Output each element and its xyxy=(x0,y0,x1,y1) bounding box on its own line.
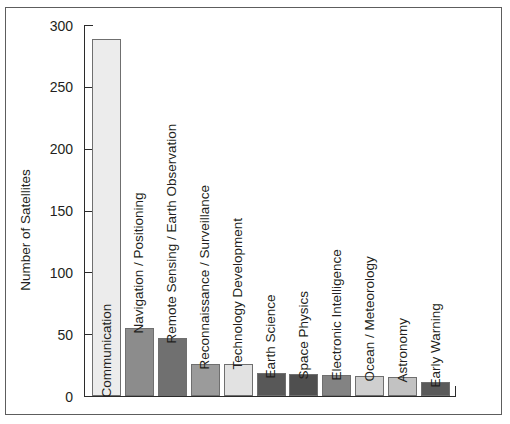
bar-category-label: Ocean / Meteorology xyxy=(363,256,377,381)
bar xyxy=(125,328,154,396)
bar xyxy=(224,364,253,396)
bar-category-label: Reconnaissance / Surveillance xyxy=(198,185,212,370)
y-axis-tick-label: 0 xyxy=(65,390,73,404)
bar xyxy=(421,382,450,396)
y-axis-tick-label: 150 xyxy=(50,204,73,218)
y-axis-title: Number of Satellites xyxy=(17,170,35,290)
x-axis-end-tick xyxy=(455,386,456,397)
bar-category-label: Remote Sensing / Earth Observation xyxy=(166,124,180,344)
bar xyxy=(289,374,318,396)
y-axis-tick-label: 250 xyxy=(50,80,73,94)
bar-category-label: Earth Science xyxy=(264,294,278,378)
bar xyxy=(92,39,121,396)
bar-category-label: Space Physics xyxy=(297,291,311,380)
bar xyxy=(322,375,351,396)
bar xyxy=(158,338,187,396)
chart-figure: Number of Satellites 050100150200250300 … xyxy=(0,0,510,424)
y-axis-title-text: Number of Satellites xyxy=(19,169,33,291)
x-axis-line xyxy=(84,396,456,397)
bar xyxy=(191,364,220,396)
bar-category-label: Astronomy xyxy=(396,318,410,383)
bar xyxy=(388,377,417,396)
plot-area: Number of Satellites 050100150200250300 … xyxy=(0,0,510,424)
y-axis-tick: 300 xyxy=(84,25,93,26)
y-axis-tick-label: 300 xyxy=(50,19,73,33)
bar-category-label: Early Warning xyxy=(429,304,443,388)
y-axis-tick: 0 xyxy=(84,396,93,397)
bar-category-label: Navigation / Positioning xyxy=(133,192,147,333)
y-axis-tick-label: 50 xyxy=(57,328,73,342)
bar xyxy=(257,373,286,396)
bar-category-label: Electronic Intelligence xyxy=(330,249,344,380)
bar-category-label: Technology Development xyxy=(231,218,245,370)
y-axis-tick-label: 100 xyxy=(50,266,73,280)
bar xyxy=(355,376,384,396)
y-axis-tick-label: 200 xyxy=(50,142,73,156)
